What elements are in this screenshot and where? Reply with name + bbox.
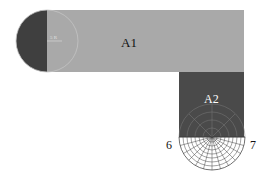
diagram-canvas: 5 R A1 A2 6 7 — [0, 0, 267, 178]
point-label-7: 7 — [250, 138, 256, 152]
region-a1-label: A1 — [121, 35, 137, 50]
point-label-6: 6 — [166, 138, 172, 152]
region-a1-semicircle — [16, 10, 47, 72]
region-a2-label: A2 — [204, 92, 219, 106]
region-a1-rect — [47, 10, 244, 72]
radius-label: 5 R — [50, 35, 58, 40]
